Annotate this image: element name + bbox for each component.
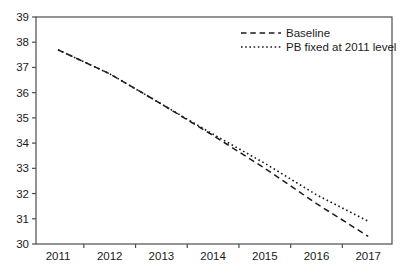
line-chart: 3031323334353637383920112012201320142015… [0, 0, 407, 275]
legend-label: PB fixed at 2011 level [286, 41, 396, 53]
legend-label: Baseline [286, 27, 330, 39]
x-tick-label: 2012 [97, 250, 123, 262]
x-tick-label: 2011 [46, 250, 71, 262]
y-tick-label: 37 [16, 61, 29, 73]
y-tick-label: 39 [16, 11, 29, 23]
y-tick-label: 35 [16, 112, 29, 124]
y-tick-label: 34 [16, 137, 29, 149]
x-tick-label: 2014 [200, 250, 226, 262]
y-tick-label: 36 [16, 87, 29, 99]
x-tick-label: 2016 [304, 250, 330, 262]
x-tick-label: 2015 [252, 250, 278, 262]
y-tick-label: 38 [16, 36, 29, 48]
y-tick-label: 33 [16, 162, 29, 174]
x-tick-label: 2017 [355, 250, 381, 262]
y-tick-label: 32 [16, 188, 29, 200]
y-tick-label: 30 [16, 238, 29, 250]
chart-figure: 3031323334353637383920112012201320142015… [0, 0, 407, 275]
y-tick-label: 31 [16, 213, 29, 225]
x-tick-label: 2013 [149, 250, 175, 262]
